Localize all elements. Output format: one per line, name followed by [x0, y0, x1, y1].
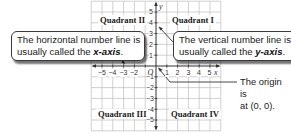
y-tick-label: 5 — [149, 8, 153, 16]
x-tick-label: 4 — [197, 69, 201, 77]
y-tick-label: 1 — [149, 52, 153, 60]
y-tick-label: −3 — [146, 95, 154, 103]
y-axis-pointer — [159, 27, 174, 43]
y-axis-callout-line1: The vertical number line is — [179, 34, 291, 46]
quadrant-i-label: Quadrant I — [170, 15, 216, 25]
x-axis-callout-line1: The horizontal number line is — [17, 34, 140, 46]
y-axis-callout-line2: usually called the y-axis. — [179, 46, 291, 58]
x-axis-callout-line2: usually called the x-axis. — [17, 46, 140, 58]
y-tick-label: 4 — [149, 19, 153, 27]
x-axis-callout: The horizontal number line is usually ca… — [11, 31, 145, 61]
x-tick-label: 1 — [165, 69, 169, 77]
origin-note: The origin is at (0, 0). — [240, 76, 291, 112]
x-axis-term: x-axis — [93, 46, 120, 57]
quadrant-ii-label: Quadrant II — [98, 15, 147, 25]
y-axis-label: y — [159, 3, 163, 11]
x-tick-label: −3 — [120, 69, 128, 77]
y-axis-term: y-axis — [255, 46, 282, 57]
y-axis-callout-prefix: usually called the — [179, 46, 255, 57]
x-axis-callout-suffix: . — [120, 46, 123, 57]
x-axis-left-arrow-icon — [92, 64, 97, 68]
y-axis-down-arrow-icon — [154, 126, 158, 131]
origin-label: O — [148, 69, 154, 77]
y-tick-label: 2 — [149, 41, 153, 49]
y-tick-label: 3 — [149, 30, 153, 38]
x-tick-label: 5 — [208, 69, 212, 77]
x-tick-label: 3 — [187, 69, 191, 77]
origin-note-line2: at (0, 0). — [240, 100, 291, 112]
x-tick-label: −4 — [109, 69, 117, 77]
y-axis-callout-suffix: . — [282, 46, 285, 57]
y-axis-up-arrow-icon — [154, 2, 158, 7]
x-axis-callout-prefix: usually called the — [17, 46, 93, 57]
quadrant-iii-label: Quadrant III — [96, 109, 148, 119]
y-axis-callout: The vertical number line is usually call… — [173, 31, 291, 61]
coordinate-plane-diagram: −5 −4 −3 −2 1 2 3 4 5 x 5 4 3 2 1 −1 −2 … — [0, 0, 291, 135]
origin-note-line1: The origin is — [240, 76, 291, 100]
x-axis-label: x — [214, 69, 218, 77]
quadrant-iv-label: Quadrant IV — [169, 109, 221, 119]
x-tick-label: −2 — [130, 69, 138, 77]
x-tick-label: 2 — [176, 69, 180, 77]
x-tick-label: −5 — [98, 69, 106, 77]
y-tick-label: −2 — [146, 84, 154, 92]
